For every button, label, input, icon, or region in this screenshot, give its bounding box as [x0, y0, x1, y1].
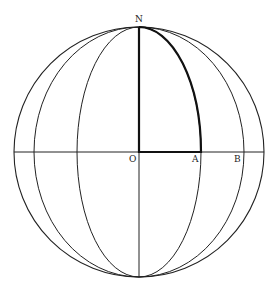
- label-b: B: [234, 154, 241, 164]
- globe-diagram: N O A B: [0, 0, 276, 297]
- label-n: N: [135, 14, 143, 24]
- label-a: A: [191, 154, 199, 164]
- highlight-region-noa: [139, 27, 201, 152]
- label-o: O: [129, 154, 136, 164]
